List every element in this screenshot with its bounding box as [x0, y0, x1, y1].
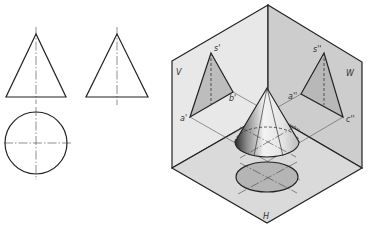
label-s-double-prime: s'': [313, 45, 322, 54]
label-v-plane: V: [176, 68, 182, 77]
label-c-double-prime: c'': [346, 115, 355, 124]
label-a-prime: a': [180, 114, 187, 123]
projection-box: V W H s' a' b' s'' a'' c'': [172, 5, 362, 223]
label-a-double-prime: a'': [288, 92, 297, 101]
label-h-plane: H: [263, 212, 269, 221]
label-b-prime: b': [229, 94, 236, 103]
label-w-plane: W: [346, 69, 355, 78]
front-view: [6, 27, 66, 104]
top-view: [4, 107, 71, 180]
cone-projection-diagram: V W H s' a' b' s'' a'' c'': [0, 0, 370, 232]
label-s-prime: s': [214, 44, 220, 53]
side-view: [86, 27, 148, 105]
